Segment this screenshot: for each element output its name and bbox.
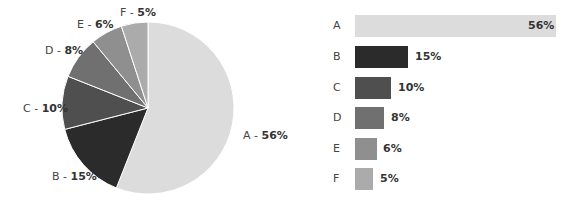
- pie-label-cat: E -: [77, 18, 95, 31]
- pie-label-pct: 56%: [262, 129, 288, 142]
- bar-b: [355, 46, 408, 68]
- pie-label-pct: 6%: [95, 18, 114, 31]
- pie-label-d: D - 8%: [45, 44, 83, 57]
- bar-category-label: C: [333, 81, 341, 94]
- pie-label-f: F - 5%: [120, 6, 156, 19]
- bar-c: [355, 77, 391, 99]
- pie-label-cat: A -: [243, 129, 262, 142]
- bar-chart: A 56% B 15% C 10% D 8% E 6% F 5%: [320, 0, 576, 200]
- bar-row-e: E 6%: [320, 138, 576, 160]
- pie-label-cat: B -: [52, 170, 71, 183]
- bar-e: [355, 138, 377, 160]
- bar-d: [355, 107, 384, 129]
- bar-row-a: A 56%: [320, 15, 576, 37]
- pie-chart: A - 56% B - 15% C - 10% D - 8% E - 6% F …: [0, 0, 300, 200]
- bar-row-f: F 5%: [320, 168, 576, 190]
- bar-category-label: E: [333, 142, 340, 155]
- bar-value-label: 10%: [398, 81, 424, 94]
- bar-row-d: D 8%: [320, 107, 576, 129]
- pie-label-pct: 8%: [64, 44, 83, 57]
- bar-value-label: 15%: [415, 50, 441, 63]
- bar-value-label: 56%: [528, 19, 554, 32]
- bar-a: [355, 15, 556, 37]
- pie-label-cat: C -: [23, 102, 42, 115]
- pie-label-b: B - 15%: [52, 170, 97, 183]
- pie-label-e: E - 6%: [77, 18, 114, 31]
- pie-label-pct: 10%: [42, 102, 68, 115]
- bar-category-label: F: [333, 172, 339, 185]
- pie-label-c: C - 10%: [23, 102, 68, 115]
- pie-label-pct: 5%: [137, 6, 156, 19]
- pie-label-cat: F -: [120, 6, 137, 19]
- bar-row-c: C 10%: [320, 77, 576, 99]
- pie-label-cat: D -: [45, 44, 64, 57]
- pie-svg: [0, 0, 300, 200]
- bar-category-label: A: [333, 19, 341, 32]
- pie-label-pct: 15%: [71, 170, 97, 183]
- bar-category-label: B: [333, 50, 341, 63]
- bar-category-label: D: [333, 111, 341, 124]
- bar-f: [355, 168, 373, 190]
- bar-value-label: 5%: [380, 172, 399, 185]
- bar-value-label: 8%: [391, 111, 410, 124]
- bar-row-b: B 15%: [320, 46, 576, 68]
- pie-label-a: A - 56%: [243, 129, 288, 142]
- bar-value-label: 6%: [383, 142, 402, 155]
